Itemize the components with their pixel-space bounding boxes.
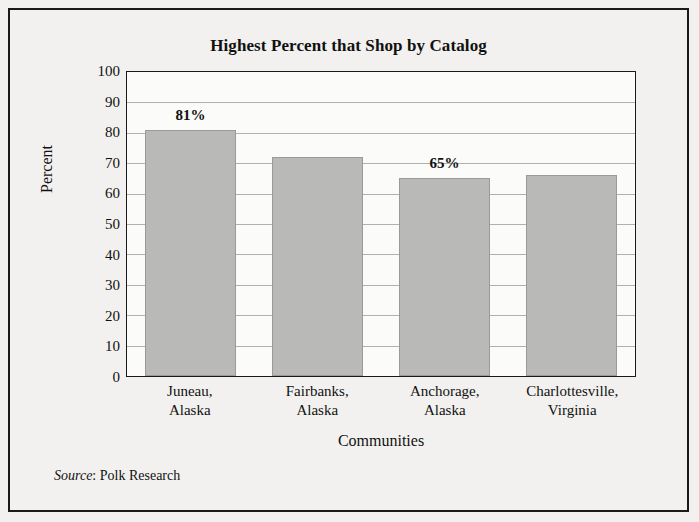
x-tick-label: Charlottesville,Virginia	[509, 382, 637, 420]
x-tick-label-line: Juneau,	[126, 382, 254, 401]
bar[interactable]: 65%	[399, 178, 490, 376]
y-axis-title: Percent	[38, 104, 56, 234]
x-tick-label: Fairbanks,Alaska	[254, 382, 382, 420]
x-tick-label: Juneau,Alaska	[126, 382, 254, 420]
source-label: Source	[54, 468, 92, 483]
plot-area: 81%65%	[126, 71, 636, 377]
y-tick-label: 40	[105, 246, 120, 263]
source-note: Source: Polk Research	[54, 468, 180, 484]
bar[interactable]	[272, 157, 363, 376]
bar-slot: 81%	[127, 72, 254, 376]
bar-slot: 65%	[381, 72, 508, 376]
x-tick-label: Anchorage,Alaska	[381, 382, 509, 420]
bar-series: 81%65%	[127, 72, 635, 376]
bar[interactable]	[526, 175, 617, 376]
source-value: Polk Research	[100, 468, 180, 483]
x-tick-label-line: Fairbanks,	[254, 382, 382, 401]
y-tick-label: 70	[105, 154, 120, 171]
x-tick-label-line: Alaska	[254, 401, 382, 420]
x-axis-tick-labels: Juneau,AlaskaFairbanks,AlaskaAnchorage,A…	[126, 382, 636, 420]
bar-value-label: 65%	[430, 155, 460, 172]
x-tick-label-line: Charlottesville,	[509, 382, 637, 401]
y-tick-label: 80	[105, 124, 120, 141]
y-tick-label: 0	[113, 369, 121, 386]
x-tick-label-line: Alaska	[381, 401, 509, 420]
source-separator: :	[92, 468, 99, 483]
y-axis-tick-labels: 1009080706050403020100	[70, 71, 120, 377]
y-tick-label: 20	[105, 307, 120, 324]
x-tick-label-line: Alaska	[126, 401, 254, 420]
y-tick-label: 100	[98, 63, 121, 80]
y-tick-label: 10	[105, 338, 120, 355]
bar-slot	[508, 72, 635, 376]
y-tick-label: 60	[105, 185, 120, 202]
chart-title: Highest Percent that Shop by Catalog	[10, 36, 687, 56]
x-tick-label-line: Virginia	[509, 401, 637, 420]
x-tick-label-line: Anchorage,	[381, 382, 509, 401]
x-axis-title: Communities	[126, 432, 636, 450]
y-tick-label: 50	[105, 216, 120, 233]
y-tick-label: 90	[105, 93, 120, 110]
figure-panel: Highest Percent that Shop by Catalog Per…	[8, 8, 689, 512]
bar-value-label: 81%	[176, 107, 206, 124]
bar-slot	[254, 72, 381, 376]
y-tick-label: 30	[105, 277, 120, 294]
bar[interactable]: 81%	[145, 130, 236, 376]
